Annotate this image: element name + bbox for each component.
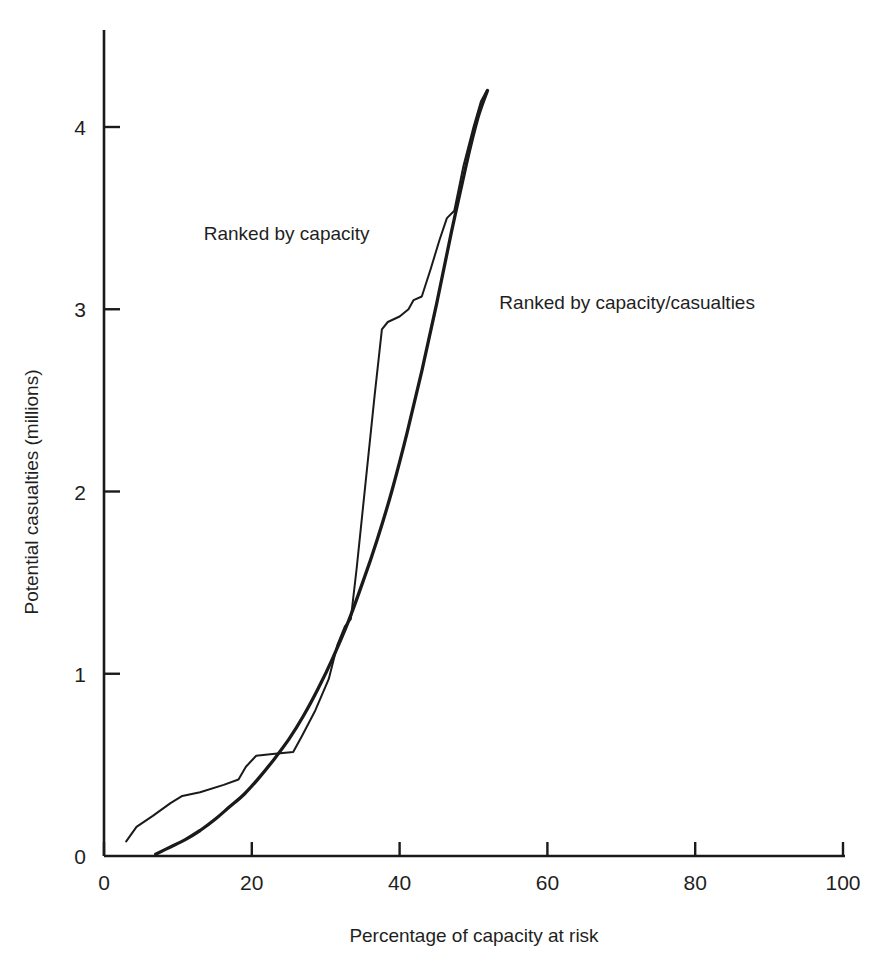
- line-chart: 020406080100 01234 Ranked by capacity Ra…: [0, 0, 892, 962]
- y-tick-label: 0: [74, 845, 86, 868]
- y-tick-label: 3: [74, 298, 86, 321]
- x-tick-label: 80: [684, 871, 707, 894]
- x-tick-label: 0: [98, 871, 110, 894]
- annotation-ranked-by-capacity-casualties: Ranked by capacity/casualties: [499, 292, 755, 313]
- x-axis-tick-labels: 020406080100: [98, 871, 860, 894]
- y-tick-label: 1: [74, 663, 86, 686]
- x-axis-ticks: [104, 842, 843, 856]
- y-tick-label: 2: [74, 481, 86, 504]
- figure-container: 020406080100 01234 Ranked by capacity Ra…: [0, 0, 892, 962]
- x-tick-label: 60: [536, 871, 559, 894]
- annotation-ranked-by-capacity: Ranked by capacity: [204, 223, 370, 244]
- x-tick-label: 100: [825, 871, 860, 894]
- series-line-ranked-by-capacity: [126, 91, 487, 842]
- x-tick-label: 40: [388, 871, 411, 894]
- y-axis-ticks: [104, 127, 120, 674]
- y-axis-title: Potential casualties (millions): [21, 370, 42, 615]
- x-axis-title: Percentage of capacity at risk: [349, 925, 599, 946]
- series-line-ranked-by-capacity-casualties: [156, 91, 488, 855]
- x-tick-label: 20: [240, 871, 263, 894]
- y-axis-tick-labels: 01234: [74, 116, 86, 868]
- y-tick-label: 4: [74, 116, 86, 139]
